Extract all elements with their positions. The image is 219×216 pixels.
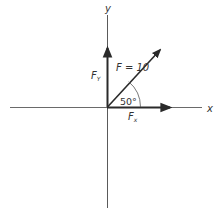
y-axis-label: y bbox=[104, 3, 112, 14]
angle-label: 50° bbox=[120, 96, 137, 107]
x-axis-label: x bbox=[206, 103, 213, 114]
fy-label: FY bbox=[91, 70, 102, 82]
fx-label: Fx bbox=[128, 111, 138, 123]
force-diagram: y x F = 10 FY Fx 50° bbox=[0, 0, 219, 216]
resultant-force-label: F = 10 bbox=[116, 62, 149, 73]
